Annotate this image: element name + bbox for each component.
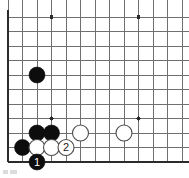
stone-black-move-1[interactable]: 1 — [29, 154, 45, 170]
black-stone-disc — [15, 140, 31, 156]
white-stone-disc — [29, 140, 45, 156]
stone-white[interactable] — [73, 125, 89, 141]
go-board-grid[interactable]: 21 — [0, 0, 189, 178]
stone-black[interactable] — [29, 67, 45, 83]
stone-white-move-2[interactable]: 2 — [58, 140, 74, 156]
stone-black[interactable] — [44, 125, 60, 141]
white-stone-disc — [116, 125, 132, 141]
stone-white[interactable] — [44, 140, 60, 156]
black-stone-disc — [29, 125, 45, 141]
scan-artifact-mark — [3, 170, 17, 174]
star-point — [49, 15, 53, 19]
stone-black[interactable] — [29, 125, 45, 141]
star-point — [49, 116, 53, 120]
star-point — [136, 116, 140, 120]
black-stone-disc — [29, 67, 45, 83]
move-number-label: 2 — [63, 141, 69, 153]
stone-white[interactable] — [29, 140, 45, 156]
white-stone-disc — [44, 140, 60, 156]
white-stone-disc — [73, 125, 89, 141]
stone-black[interactable] — [15, 140, 31, 156]
star-point — [136, 15, 140, 19]
stone-white[interactable] — [116, 125, 132, 141]
go-board-diagram: 21 — [0, 0, 189, 178]
black-stone-disc — [44, 125, 60, 141]
move-number-label: 1 — [34, 156, 40, 168]
